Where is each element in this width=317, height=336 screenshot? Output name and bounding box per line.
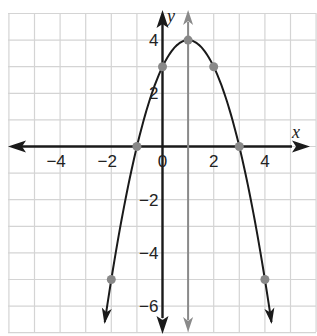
axis-of-symmetry <box>183 10 193 332</box>
y-tick-label: −4 <box>139 244 158 263</box>
data-point <box>107 275 116 284</box>
data-point <box>132 142 141 151</box>
x-tick-label: −4 <box>46 152 65 171</box>
data-point <box>260 275 269 284</box>
data-point <box>184 36 193 45</box>
x-tick-label: 0 <box>158 152 167 171</box>
y-tick-label: 4 <box>149 31 158 50</box>
y-axis-label: y <box>165 6 175 26</box>
data-point <box>158 62 167 71</box>
y-tick-label: −6 <box>139 297 158 316</box>
parabola-graph: −4−202442−2−4−6 x y <box>0 0 317 336</box>
x-tick-label: 2 <box>209 152 218 171</box>
x-tick-label: 4 <box>260 152 269 171</box>
x-tick-label: −2 <box>98 152 117 171</box>
data-point <box>209 62 218 71</box>
x-axis-label: x <box>291 122 300 142</box>
data-point <box>235 142 244 151</box>
y-tick-label: −2 <box>139 191 158 210</box>
y-tick-label: 2 <box>149 84 158 103</box>
